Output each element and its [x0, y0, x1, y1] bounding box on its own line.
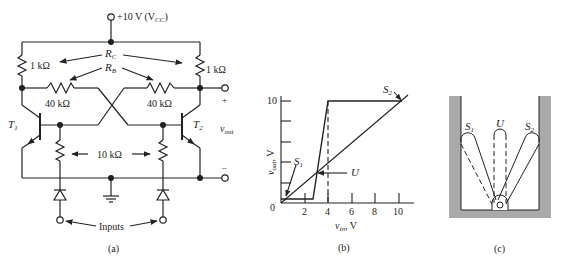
- y-tick-10: 10: [267, 95, 277, 106]
- c-u-label: U: [496, 117, 505, 129]
- re-left-resistor: [56, 140, 64, 161]
- vcc-terminal: [108, 14, 114, 20]
- rb-right-resistor: [147, 83, 174, 93]
- right-diode-icon: [157, 178, 169, 217]
- output-plus-terminal: [222, 85, 228, 91]
- x-tick-10: 10: [393, 206, 403, 217]
- left-diode-icon: [54, 178, 66, 217]
- rb-label: RB: [104, 61, 117, 75]
- caption-a: (a): [108, 243, 119, 255]
- rc-label: RC: [104, 47, 117, 61]
- s1-label: S1: [294, 155, 303, 169]
- rb-left-value: 40 kΩ: [45, 98, 70, 109]
- stick-s2: [498, 133, 539, 204]
- y-axis-label: vout, V: [265, 149, 278, 175]
- u-label: U: [351, 166, 360, 178]
- rc-left-value: 1 kΩ: [30, 60, 50, 71]
- plus-label: +: [222, 95, 227, 105]
- panel-c-analogy: [449, 96, 551, 218]
- caption-b: (b): [338, 242, 350, 254]
- right-wall: [539, 96, 551, 218]
- load-line: [281, 95, 408, 203]
- rb-left-resistor: [47, 83, 74, 93]
- rb-right-value: 40 kΩ: [147, 98, 172, 109]
- panel-b-labels: 10 0 2 4 6 8 10 vin, V vout, V S1 U S2 (…: [265, 83, 403, 254]
- panel-b-chart: [281, 92, 414, 203]
- minus-label: –: [221, 162, 227, 172]
- rc-left-resistor: [18, 55, 26, 76]
- c-s2-label: S2: [525, 120, 535, 134]
- rc-right-resistor: [196, 55, 204, 76]
- t2-label: T2: [193, 118, 203, 132]
- stick-u: [494, 129, 506, 203]
- c-s1-label: S1: [465, 120, 474, 134]
- rc-right-value: 1 kΩ: [206, 64, 226, 75]
- output-minus-terminal: [222, 175, 228, 181]
- t1-label: T1: [8, 118, 18, 132]
- t1-emitter-arrow: [28, 135, 40, 144]
- left-wall: [449, 96, 461, 218]
- figure-canvas: +10 V (VCC) RC RB 1 kΩ 1 kΩ 40 kΩ 40 kΩ …: [0, 0, 564, 267]
- emitter-res-value: 10 kΩ: [97, 149, 122, 160]
- floor: [449, 210, 551, 218]
- t2-emitter-arrow: [182, 135, 194, 144]
- s2-label: S2: [383, 83, 393, 97]
- x-tick-2: 2: [302, 206, 307, 217]
- x-tick-6: 6: [349, 206, 354, 217]
- x-tick-8: 8: [372, 206, 377, 217]
- input-left-terminal: [57, 217, 63, 223]
- caption-c: (c): [494, 243, 505, 255]
- stick-s1: [461, 133, 496, 204]
- input-right-terminal: [160, 217, 166, 223]
- vout-label: vout: [220, 123, 234, 136]
- origin-label: 0: [270, 202, 275, 213]
- re-right-resistor: [159, 140, 167, 161]
- ground-icon: [103, 178, 119, 202]
- x-axis-label: vin, V: [335, 220, 358, 233]
- supply-label: +10 V (VCC): [117, 11, 168, 24]
- x-tick-4: 4: [325, 206, 330, 217]
- inputs-label: Inputs: [99, 221, 124, 232]
